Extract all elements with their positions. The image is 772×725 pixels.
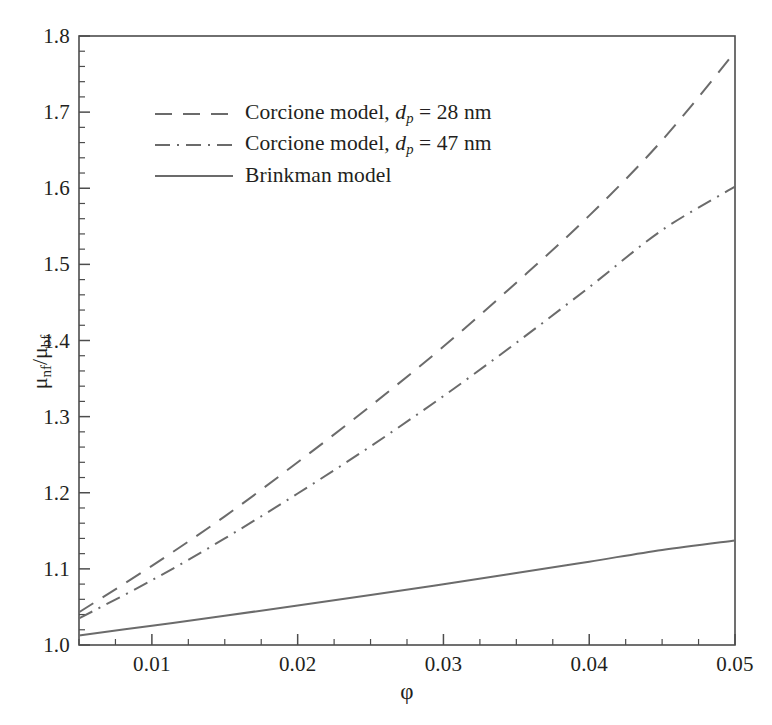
y-axis-title-sub-nf: nf (38, 365, 54, 377)
y-tick-label: 1.7 (22, 100, 70, 125)
y-axis-title-mu-nf: μ (27, 378, 52, 390)
y-axis-title: μnf/μbf (27, 335, 55, 390)
legend-item-label: Brinkman model (245, 163, 392, 188)
y-axis-title-sub-bf: bf (38, 335, 54, 347)
x-tick-label: 0.05 (716, 652, 754, 677)
legend-label-subscript: p (406, 110, 413, 126)
chart-figure: 1.81.71.61.51.41.31.21.11.00.010.020.030… (0, 0, 772, 725)
legend-label-prefix: Brinkman model (245, 163, 392, 187)
y-tick-label: 1.1 (22, 556, 70, 581)
legend-label-subscript: p (406, 141, 413, 157)
legend-label-prefix: Corcione model, (245, 100, 395, 124)
y-tick-label: 1.0 (22, 633, 70, 658)
y-tick-label: 1.8 (22, 24, 70, 49)
x-axis-title: φ (400, 679, 413, 705)
legend-item-label: Corcione model, dp = 28 nm (245, 100, 492, 127)
x-tick-label: 0.03 (425, 652, 463, 677)
y-tick-label: 1.5 (22, 252, 70, 277)
legend-label-suffix: = 28 nm (414, 100, 492, 124)
dash-dot-line-icon (155, 138, 233, 152)
x-tick-label: 0.01 (133, 652, 171, 677)
y-axis-title-slash-mu: /μ (27, 347, 52, 365)
chart-legend: Corcione model, dp = 28 nmCorcione model… (155, 98, 575, 191)
y-tick-label: 1.2 (22, 480, 70, 505)
legend-item-label: Corcione model, dp = 47 nm (245, 131, 492, 158)
legend-item[interactable]: Corcione model, dp = 47 nm (155, 129, 575, 160)
x-tick-label: 0.02 (279, 652, 317, 677)
y-tick-label: 1.3 (22, 404, 70, 429)
legend-label-suffix: = 47 nm (414, 131, 492, 155)
series-line (79, 540, 735, 635)
legend-label-symbol: d (395, 131, 406, 155)
legend-label-prefix: Corcione model, (245, 131, 395, 155)
y-tick-label: 1.6 (22, 176, 70, 201)
legend-item[interactable]: Brinkman model (155, 160, 575, 191)
solid-line-icon (155, 169, 233, 183)
legend-label-symbol: d (395, 100, 406, 124)
dashed-line-icon (155, 107, 233, 121)
x-tick-label: 0.04 (570, 652, 608, 677)
legend-item[interactable]: Corcione model, dp = 28 nm (155, 98, 575, 129)
